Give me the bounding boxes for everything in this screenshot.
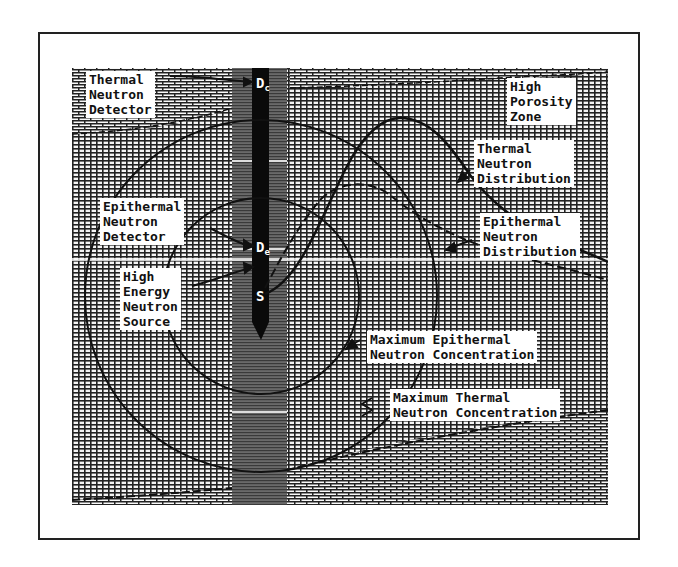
label-epithermal-neutron-detector: Epithermal Neutron Detector xyxy=(100,198,184,245)
thermal-detector-marker: Dc xyxy=(256,76,270,95)
marker-subscript: e xyxy=(264,247,269,257)
marker-subscript: c xyxy=(264,83,269,93)
epithermal-detector-marker: De xyxy=(256,240,270,259)
label-high-energy-neutron-source: High Energy Neutron Source xyxy=(120,268,181,330)
label-thermal-neutron-detector: Thermal Neutron Detector xyxy=(86,71,155,118)
source-marker: S xyxy=(256,289,264,303)
label-thermal-neutron-distribution: Thermal Neutron Distribution xyxy=(474,140,574,187)
marker-letter: S xyxy=(256,288,264,304)
label-max-epithermal-concentration: Maximum Epithermal Neutron Concentration xyxy=(367,331,537,363)
label-max-thermal-concentration: Maximum Thermal Neutron Concentration xyxy=(390,389,560,421)
label-high-porosity-zone: High Porosity Zone xyxy=(507,78,576,125)
label-epithermal-neutron-distribution: Epithermal Neutron Distribution xyxy=(480,213,580,260)
